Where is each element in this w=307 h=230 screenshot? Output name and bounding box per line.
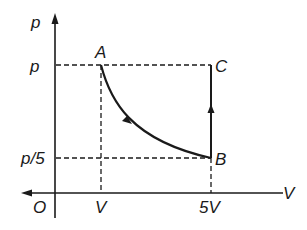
process-ab-curve	[101, 65, 211, 158]
tick-label-5v: 5V	[199, 198, 221, 217]
tick-label-p: p	[29, 57, 39, 76]
bc-arrow-icon	[208, 104, 215, 113]
tick-label-p5: p/5	[20, 149, 45, 168]
tick-label-v: V	[95, 198, 108, 217]
point-b-label: B	[215, 150, 226, 169]
x-axis	[21, 190, 283, 197]
guide-lines	[56, 65, 211, 193]
x-axis-arrow-icon	[21, 190, 32, 197]
y-axis-arrow-icon	[52, 13, 59, 24]
origin-label: O	[33, 198, 46, 217]
point-a-label: A	[94, 43, 106, 62]
y-axis-label: p	[30, 13, 40, 32]
y-axis	[52, 13, 59, 218]
point-c-label: C	[215, 57, 228, 76]
pv-diagram: p p p/5 O V 5V V A C B	[0, 0, 307, 230]
x-axis-label: V	[283, 184, 296, 203]
